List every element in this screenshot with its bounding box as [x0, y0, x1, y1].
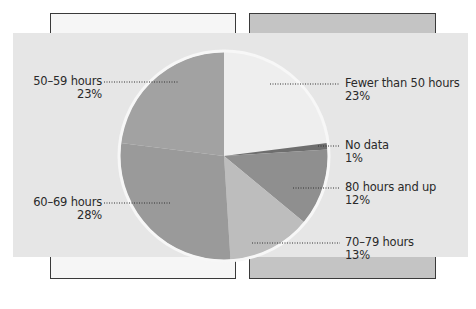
label-pct: 23% — [33, 88, 102, 101]
label-pct: 12% — [345, 194, 436, 207]
label-pct: 1% — [345, 152, 389, 165]
label-pct: 28% — [33, 209, 102, 222]
label-no-data: No data 1% — [345, 139, 389, 165]
label-60-69: 60–69 hours 28% — [33, 196, 102, 222]
label-pct: 23% — [345, 90, 460, 103]
label-70-79: 70–79 hours 13% — [345, 236, 414, 262]
label-pct: 13% — [345, 249, 414, 262]
pie-slice — [120, 143, 231, 260]
label-80-and-up: 80 hours and up 12% — [345, 181, 436, 207]
pie-chart — [0, 0, 476, 309]
pie-slice — [224, 52, 327, 156]
label-fewer-than-50: Fewer than 50 hours 23% — [345, 77, 460, 103]
pie-slice — [121, 52, 224, 156]
label-50-59: 50–59 hours 23% — [33, 75, 102, 101]
